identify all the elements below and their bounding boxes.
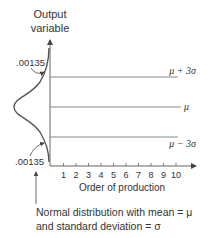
y-axis-label-line2: variable: [31, 22, 70, 34]
x-axis-label: Order of production: [79, 182, 165, 193]
tick-label: 7: [136, 170, 141, 180]
tick-label: 9: [161, 170, 166, 180]
tick-label: 8: [148, 170, 153, 180]
upper-tail-probability: .00135: [16, 57, 45, 68]
caption-line2: and standard deviation = σ: [36, 220, 161, 232]
tick-label: 4: [98, 170, 103, 180]
tick-label: 1: [61, 170, 66, 180]
caption-line1: Normal distribution with mean = μ: [36, 206, 192, 218]
tick-label: 5: [111, 170, 116, 180]
center-line-label: μ: [183, 101, 189, 112]
y-axis-label-line1: Output: [33, 8, 66, 20]
lower-tail-probability: .00135: [15, 156, 44, 167]
tick-label: 3: [86, 170, 91, 180]
upper-tail-arrow: [31, 68, 44, 73]
x-axis-tick-labels: 1 2 3 4 5 6 7 8 9 10: [61, 170, 181, 180]
tick-label: 10: [171, 170, 181, 180]
lower-tail-arrow: [30, 143, 44, 156]
lower-control-label: μ − 3σ: [168, 138, 197, 149]
tick-label: 2: [73, 170, 78, 180]
upper-control-label: μ + 3σ: [168, 65, 197, 76]
control-chart-diagram: Output variable 1 2 3 4 5 6 7 8 9 10 Ord…: [0, 0, 215, 238]
tick-label: 6: [123, 170, 128, 180]
